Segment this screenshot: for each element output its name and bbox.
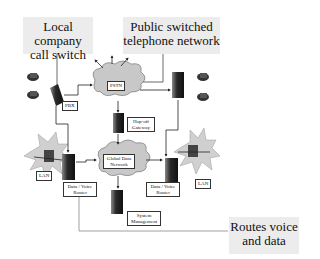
label-global-data-network: Global Data Network: [103, 154, 135, 169]
phone-icon: [27, 73, 39, 81]
phone-icon: [197, 93, 209, 101]
callout-pstn: Public switched telephone network: [123, 17, 220, 54]
lan-hub-right-icon: [188, 145, 198, 157]
lan-hub-left-icon: [44, 150, 54, 162]
label-router-left: Data / Voice Router: [63, 182, 97, 197]
label-pstn: PSTN: [107, 81, 125, 91]
callout-pbx: Local company call switch: [23, 17, 93, 54]
label-gateway: Hop-off Gateway: [127, 117, 155, 132]
label-pbx: PBX: [62, 101, 78, 111]
label-router-right: Data / Voice Router: [146, 182, 180, 197]
label-lan-right: LAN: [195, 179, 211, 189]
label-system-management: System Management: [127, 211, 161, 226]
router-left-device-icon: [62, 154, 75, 180]
phone-icon: [197, 73, 209, 81]
callout-routes: Routes voice and data: [229, 217, 299, 254]
switch-device-icon: [172, 72, 184, 98]
gateway-device-icon: [113, 113, 124, 133]
phone-icon: [27, 91, 39, 99]
link-pbx-pstn: [64, 85, 92, 95]
router-right-device-icon: [165, 158, 178, 184]
label-lan-left: LAN: [36, 171, 52, 181]
sysmgmt-device-icon: [111, 190, 123, 214]
link-switch-router: [166, 100, 178, 156]
link-router-global: [76, 160, 96, 162]
